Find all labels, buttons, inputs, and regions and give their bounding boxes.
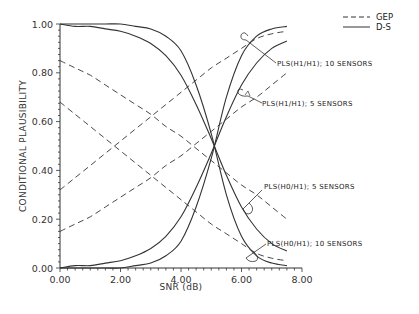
x-axis-title: SNR (dB)	[160, 282, 203, 292]
annotation-h0-5-sensors: PLS(H0/H1); 5 SENSORS	[264, 183, 355, 191]
annotation-leader-3	[243, 190, 262, 214]
series-line-gep-1	[60, 73, 287, 232]
x-tick-label: 6.00	[231, 274, 252, 285]
legend-label-gep: GEP	[376, 12, 393, 22]
series-line-ds-6	[60, 24, 287, 251]
series-line-ds-5	[60, 41, 287, 268]
x-tick-label: 8.00	[291, 274, 312, 285]
series-line-ds-4	[60, 26, 287, 268]
legend-label-ds: D-S	[376, 22, 391, 32]
y-tick-label: 0.20	[32, 214, 53, 225]
series-line-ds-7	[60, 24, 287, 266]
x-tick-label: 0.00	[49, 274, 70, 285]
annotation-h1-5-sensors: PLS(H1/H1); 5 SENSORS	[262, 100, 353, 108]
annotation-tick-2	[245, 91, 250, 96]
y-tick-label: 0.00	[32, 263, 53, 274]
series-line-gep-3	[60, 102, 287, 261]
x-tick-label: 2.00	[110, 274, 131, 285]
annotation-h0-10-sensors: PLS(H0/H1); 10 SENSORS	[267, 240, 363, 248]
annotation-h1-10-sensors: PLS(H1/H1); 10 SENSORS	[277, 60, 373, 68]
annotations: PLS(H1/H1); 10 SENSORS PLS(H1/H1); 5 SEN…	[238, 33, 373, 262]
series-group	[60, 24, 287, 268]
y-tick-label: 0.60	[32, 116, 53, 127]
annotation-leader-4	[246, 244, 266, 262]
series-line-gep-2	[60, 61, 287, 220]
series-line-gep-0	[60, 31, 287, 190]
y-tick-label: 1.00	[32, 19, 53, 30]
y-tick-label: 0.40	[32, 165, 53, 176]
y-tick-label: 0.80	[32, 67, 53, 78]
y-axis-title: CONDITIONAL PLAUSIBILITY	[18, 80, 28, 212]
legend: GEP D-S	[343, 12, 393, 32]
plausibility-chart: 0.000.200.400.600.801.000.002.004.006.00…	[0, 0, 419, 314]
